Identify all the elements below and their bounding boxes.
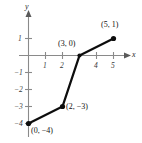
- x-tick-label-4: 4: [94, 62, 98, 70]
- x-tick-label-1: 1: [43, 62, 47, 70]
- point-label-5-1: (5, 1): [101, 21, 118, 29]
- data-point-2-minus3: [60, 104, 65, 109]
- point-label-2-minus3: (2, −3): [66, 103, 88, 111]
- x-tick-label-5: 5: [111, 62, 115, 70]
- x-axis-label: x: [132, 51, 136, 59]
- data-point-5-1: [111, 36, 116, 41]
- point-label-3-0: (3, 0): [58, 40, 75, 48]
- y-tick-label-1: 1: [18, 35, 22, 43]
- y-tick-label-neg2: −2: [14, 86, 23, 94]
- point-label-0-minus4: (0, −4): [31, 127, 53, 135]
- y-tick-label-neg3: −3: [14, 103, 23, 111]
- y-axis-arrow-icon: [26, 10, 32, 17]
- y-tick-label-neg1: −1: [14, 69, 23, 77]
- data-point-3-0: [77, 53, 81, 57]
- x-tick-label-2: 2: [60, 62, 64, 70]
- y-axis-label: y: [25, 3, 29, 11]
- y-tick-label-neg4: −4: [14, 120, 23, 128]
- graph-figure: y x 1 2 4 5 1 −1 −2 −3 −4 (0, −4) (2, −3…: [0, 0, 142, 143]
- x-axis-arrow-icon: [124, 53, 131, 59]
